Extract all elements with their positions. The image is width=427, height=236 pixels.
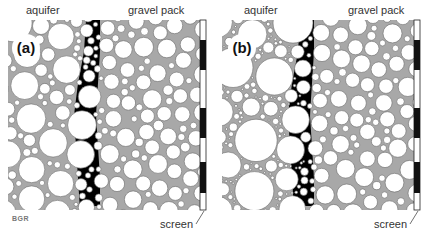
aquifer-label: aquifer [26, 4, 60, 16]
panel-tag: (b) [228, 34, 256, 62]
panel-tag: (a) [12, 34, 40, 62]
screen-pointer [410, 211, 418, 224]
screen-label: screen [160, 218, 193, 230]
well-screen [414, 20, 420, 210]
bgr-logo: BGR [12, 215, 29, 222]
screen-label: screen [374, 218, 407, 230]
well-screen [200, 20, 206, 210]
gravel-pack-label: gravel pack [348, 4, 404, 16]
gravel-pack-label: gravel pack [128, 4, 184, 16]
aquifer-label: aquifer [244, 4, 278, 16]
panel-b: aquifer gravel pack (b) screen [214, 0, 427, 236]
panel-a: aquifer gravel pack (a) screen BGR [0, 0, 213, 236]
screen-pointer [196, 211, 204, 224]
